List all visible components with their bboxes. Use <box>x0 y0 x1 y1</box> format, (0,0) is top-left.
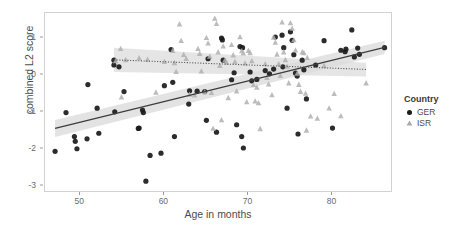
y-axis-label: combined L2 score <box>23 0 35 140</box>
x-tick-label: 70 <box>227 196 267 206</box>
data-point <box>234 122 239 127</box>
circle-marker-icon <box>404 107 414 117</box>
data-point <box>308 113 314 118</box>
data-point <box>170 80 175 85</box>
data-point <box>363 80 369 85</box>
legend-item-label: ISR <box>417 118 431 128</box>
y-tick-label: -2 <box>0 143 36 153</box>
data-point <box>304 96 309 101</box>
data-point <box>116 64 121 69</box>
data-point <box>205 40 211 45</box>
data-point <box>229 42 235 47</box>
data-point <box>219 117 225 122</box>
x-tick-mark <box>163 192 164 195</box>
data-point <box>295 131 300 136</box>
data-point <box>338 113 344 118</box>
legend-item-isr[interactable]: ISR <box>404 118 439 128</box>
data-point <box>274 51 280 56</box>
data-point <box>214 21 220 26</box>
data-point <box>321 38 326 43</box>
data-point <box>229 77 234 82</box>
data-point <box>239 134 244 139</box>
data-point <box>73 139 78 144</box>
x-tick-mark <box>331 192 332 195</box>
data-point <box>84 136 89 141</box>
data-point <box>147 153 152 158</box>
data-point <box>273 40 279 45</box>
data-point <box>72 134 77 139</box>
y-tick-label: -3 <box>0 180 36 190</box>
x-tick-label: 80 <box>311 196 351 206</box>
x-tick-mark <box>247 192 248 195</box>
data-point <box>263 68 268 73</box>
data-point <box>158 151 163 156</box>
data-point <box>343 47 348 52</box>
y-tick-mark <box>40 110 43 111</box>
data-point <box>212 16 218 21</box>
data-point <box>355 45 360 50</box>
data-point <box>225 95 231 100</box>
data-point <box>220 43 226 48</box>
data-point <box>248 69 253 74</box>
data-point <box>177 21 183 26</box>
data-point <box>204 35 210 40</box>
data-point <box>237 34 243 39</box>
data-point <box>195 46 201 51</box>
y-tick-mark <box>40 147 43 148</box>
x-tick-label: 50 <box>59 196 99 206</box>
data-point <box>121 89 126 94</box>
legend-item-ger[interactable]: GER <box>404 107 439 117</box>
data-point <box>271 66 276 71</box>
data-point <box>281 49 287 54</box>
chart-figure: 10-1-2-3 50607080 combined L2 score Age … <box>0 0 458 228</box>
data-point <box>162 83 167 88</box>
data-point <box>143 179 148 184</box>
x-tick-mark <box>79 192 80 195</box>
data-point <box>288 20 294 25</box>
data-point <box>210 125 216 130</box>
data-point <box>330 125 335 130</box>
plot-svg <box>45 13 392 192</box>
y-tick-mark <box>40 37 43 38</box>
triangle-marker-icon <box>404 118 414 128</box>
data-point <box>119 94 125 99</box>
data-point <box>215 49 221 54</box>
data-point <box>52 149 57 154</box>
data-point <box>298 89 304 94</box>
data-point <box>252 98 258 103</box>
data-point <box>269 92 275 97</box>
x-tick-label: 60 <box>143 196 183 206</box>
legend: Country GERISR <box>404 94 439 129</box>
data-point <box>291 52 296 57</box>
data-point <box>293 47 299 52</box>
data-point <box>172 134 177 139</box>
data-point <box>85 82 90 87</box>
data-point <box>141 110 146 115</box>
data-point <box>300 58 305 63</box>
data-point <box>96 131 101 136</box>
x-axis-label: Age in months <box>44 208 392 220</box>
data-point <box>153 89 159 94</box>
legend-item-label: GER <box>417 107 435 117</box>
data-point <box>279 19 285 24</box>
data-point <box>304 127 310 132</box>
data-point <box>178 38 184 43</box>
data-point <box>241 145 246 150</box>
data-point <box>296 82 302 87</box>
data-point <box>284 106 289 111</box>
data-point <box>95 106 100 111</box>
plot-panel <box>44 12 392 192</box>
data-point <box>232 70 237 75</box>
data-point <box>349 27 354 32</box>
data-point <box>331 91 337 96</box>
series-points-ger <box>52 27 387 183</box>
data-point <box>186 102 191 107</box>
data-point <box>315 115 321 120</box>
data-point <box>137 125 142 130</box>
data-point <box>244 99 250 104</box>
data-point <box>305 55 311 60</box>
data-point <box>326 105 332 110</box>
legend-title: Country <box>404 94 439 104</box>
data-point <box>286 80 292 85</box>
data-point <box>279 33 284 38</box>
